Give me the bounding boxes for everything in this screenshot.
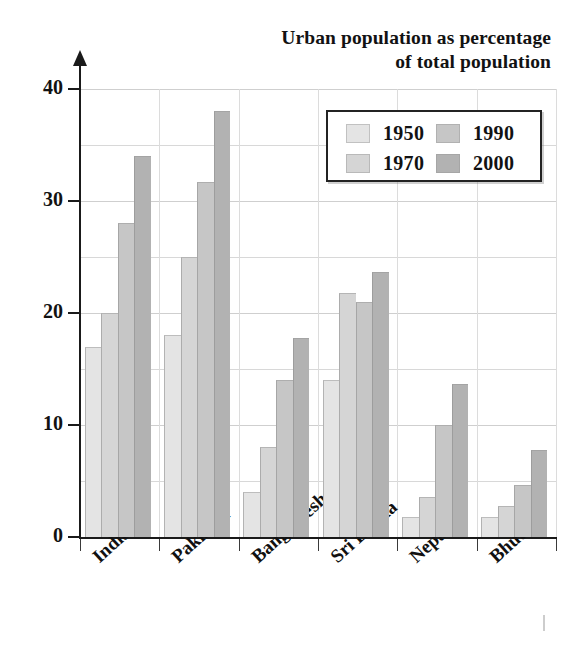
bar-sri-lanka-1990 (356, 302, 373, 537)
bar-bhutan-1970 (498, 506, 515, 537)
bar-bangladesh-1990 (276, 380, 293, 537)
x-tick-2 (239, 539, 240, 551)
bar-chart-figure: Urban population as percentage of total … (0, 0, 563, 649)
bar-bhutan-1990 (514, 485, 531, 537)
y-tick-label-30: 30 (17, 188, 63, 211)
legend-label-1950: 1950 (383, 122, 424, 145)
legend-entry-2000[interactable]: 2000 (436, 152, 514, 175)
bar-bangladesh-1970 (260, 447, 277, 537)
legend-box: 1950197019902000 (326, 110, 542, 182)
gridline-x-2 (239, 89, 240, 537)
y-tick-mark-30 (68, 200, 81, 202)
bar-bangladesh-1950 (243, 492, 260, 537)
gridline-x-6 (556, 89, 557, 537)
y-tick-label-0: 0 (17, 524, 63, 547)
bar-bhutan-2000 (531, 450, 548, 537)
bar-india-1990 (118, 223, 135, 537)
legend-entry-1950[interactable]: 1950 (346, 122, 424, 145)
gridline-x-1 (159, 89, 160, 537)
bar-pakistan-1990 (197, 182, 214, 537)
x-tick-1 (159, 539, 160, 551)
chart-title-line-2: of total population (191, 50, 551, 74)
bar-india-1950 (85, 347, 102, 537)
y-tick-mark-40 (68, 88, 81, 90)
chart-title-line-1: Urban population as percentage (191, 26, 551, 50)
gridline-x-3 (318, 89, 319, 537)
y-tick-label-20: 20 (17, 300, 63, 323)
x-tick-5 (477, 539, 478, 551)
legend-swatch-1990 (436, 124, 460, 143)
y-tick-label-10: 10 (17, 412, 63, 435)
x-tick-0 (80, 539, 81, 551)
y-tick-mark-10 (68, 424, 81, 426)
legend-entry-1970[interactable]: 1970 (346, 152, 424, 175)
up-arrow-icon (73, 50, 87, 66)
bar-india-1970 (101, 313, 118, 537)
bar-bangladesh-2000 (293, 338, 310, 537)
y-tick-mark-20 (68, 312, 81, 314)
bar-nepal-1970 (419, 497, 436, 537)
bar-pakistan-2000 (214, 111, 231, 537)
bar-pakistan-1970 (181, 257, 198, 537)
bar-sri-lanka-2000 (372, 272, 389, 537)
legend-swatch-1970 (346, 154, 370, 173)
bar-nepal-2000 (452, 384, 469, 537)
bar-nepal-1950 (402, 517, 419, 537)
bar-sri-lanka-1970 (339, 293, 356, 537)
y-tick-mark-0 (68, 536, 81, 538)
legend-swatch-2000 (436, 154, 460, 173)
bar-india-2000 (134, 156, 151, 537)
legend-label-2000: 2000 (473, 152, 514, 175)
bar-bhutan-1950 (481, 517, 498, 537)
bar-sri-lanka-1950 (323, 380, 340, 537)
y-tick-label-40: 40 (17, 76, 63, 99)
x-tick-3 (318, 539, 319, 551)
legend-swatch-1950 (346, 124, 370, 143)
bar-pakistan-1950 (164, 335, 181, 537)
legend-label-1990: 1990 (473, 122, 514, 145)
bar-nepal-1990 (435, 425, 452, 537)
scan-artifact (543, 615, 545, 631)
x-tick-6 (556, 539, 557, 551)
y-axis-line (79, 62, 81, 538)
legend-label-1970: 1970 (383, 152, 424, 175)
chart-title: Urban population as percentage of total … (191, 26, 551, 74)
legend-entry-1990[interactable]: 1990 (436, 122, 514, 145)
x-tick-4 (397, 539, 398, 551)
